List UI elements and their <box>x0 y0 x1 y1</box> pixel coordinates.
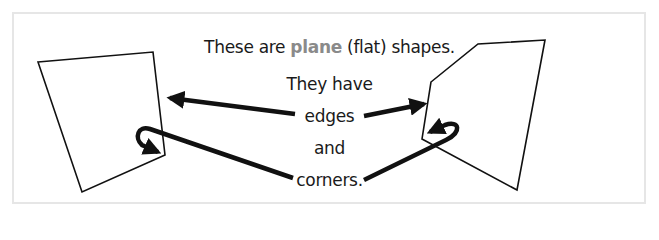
caption-text: These are <box>204 37 290 57</box>
caption-line-2: They have <box>0 74 659 94</box>
caption-line-1: These are plane (flat) shapes. <box>0 37 659 57</box>
label-corners: corners. <box>0 170 659 190</box>
label-edges: edges <box>0 106 659 126</box>
caption-line-4: and <box>0 138 659 158</box>
highlight-word-plane: plane <box>290 37 342 57</box>
caption-text: (flat) shapes. <box>342 37 455 57</box>
